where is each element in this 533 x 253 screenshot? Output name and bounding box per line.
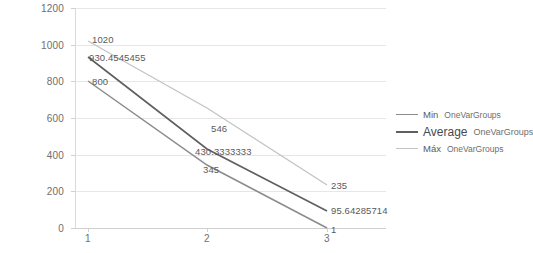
legend-swatch-min-icon — [396, 114, 418, 115]
data-label-average-2: 430.3333333 — [195, 146, 252, 157]
data-label-average-3: 95.64285714 — [331, 205, 388, 216]
data-label-min-1: 800 — [92, 76, 108, 87]
legend-group-average: OneVarGroups — [473, 127, 533, 137]
series-line-average — [88, 57, 327, 211]
legend-item-average[interactable]: Average OneVarGroups — [396, 123, 522, 140]
legend-item-max[interactable]: Máx OneVarGroups — [396, 140, 522, 157]
legend-item-min[interactable]: Min OneVarGroups — [396, 106, 522, 123]
legend-group-max: OneVarGroups — [447, 144, 504, 154]
data-label-max-1: 1020 — [92, 34, 114, 45]
data-label-max-3: 235 — [331, 180, 347, 191]
legend-group-min: OneVarGroups — [444, 110, 501, 120]
data-label-max-2: 546 — [211, 123, 227, 134]
data-label-min-2: 345 — [203, 164, 219, 175]
chart-legend: Min OneVarGroups Average OneVarGroups Má… — [396, 106, 522, 157]
legend-swatch-max-icon — [396, 148, 418, 149]
data-label-average-1: 930.4545455 — [89, 52, 146, 63]
legend-label-max: Máx — [423, 143, 441, 154]
data-label-min-3: 1 — [331, 224, 336, 235]
legend-swatch-average-icon — [396, 131, 418, 133]
legend-label-average: Average — [423, 125, 467, 139]
legend-label-min: Min — [423, 109, 438, 120]
